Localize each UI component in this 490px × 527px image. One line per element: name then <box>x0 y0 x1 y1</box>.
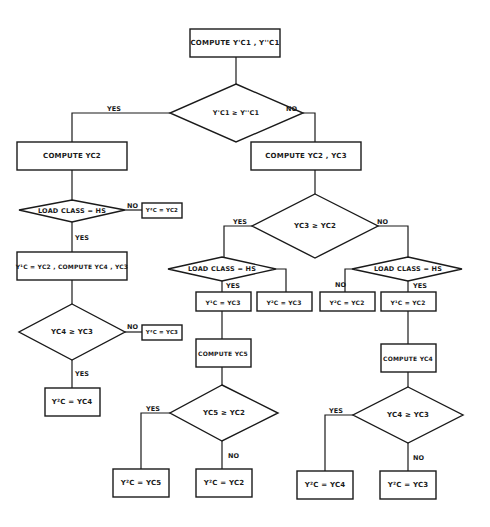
label-n2: COMPUTE YC2 <box>43 152 101 160</box>
edge-label-d2-no: NO <box>127 202 138 210</box>
edge-label-d3-yes: YES <box>75 370 89 378</box>
label-d8: YC4 ≥ YC3 <box>387 411 429 419</box>
edge-label-d5-yes: YES <box>226 282 240 290</box>
label-n16: Y²C = YC4 <box>305 481 346 489</box>
label-n17: Y²C = YC3 <box>388 481 429 489</box>
edge-label-d1-yes: YES <box>107 105 121 113</box>
label-d5: LOAD CLASS = HS <box>188 265 256 273</box>
edge-label-d8-yes: YES <box>329 407 343 415</box>
label-n1: COMPUTE Y'C1 , Y''C1 <box>191 39 280 47</box>
label-n12: COMPUTE YC5 <box>198 350 248 357</box>
edge-label-d6-yes: YES <box>413 282 427 290</box>
label-n9: Y²C = YC3 <box>266 299 301 306</box>
label-d1: Y'C1 ≥ Y''C1 <box>213 109 259 117</box>
label-d4: YC3 ≥ YC2 <box>294 222 336 230</box>
label-d7: YC5 ≥ YC2 <box>203 409 245 417</box>
label-n10: Y²C = YC2 <box>329 299 364 306</box>
label-n11: Y¹C = YC2 <box>390 299 425 306</box>
edge-label-d8-no: NO <box>413 454 424 462</box>
label-n7: Y²C = YC4 <box>52 398 93 406</box>
label-n13: COMPUTE YC4 <box>383 355 433 362</box>
edge-label-d4-yes: YES <box>233 218 247 226</box>
label-n14: Y²C = YC5 <box>121 479 162 487</box>
edge-label-d7-no: NO <box>228 452 239 460</box>
edge-label-d3-no: NO <box>127 323 138 331</box>
label-n8: Y¹C = YC3 <box>205 299 240 306</box>
label-d6: LOAD CLASS = HS <box>374 265 442 273</box>
label-d3: YC4 ≥ YC3 <box>51 328 93 336</box>
label-n3: COMPUTE YC2 , YC3 <box>265 152 346 160</box>
edge-label-d2-yes: YES <box>75 234 89 242</box>
edge-label-d4-no: NO <box>377 218 388 226</box>
label-n15: Y²C = YC2 <box>204 479 245 487</box>
label-n6: Y²C = YC3 <box>146 329 178 335</box>
label-d2: LOAD CLASS = HS <box>38 207 106 215</box>
label-n5: Y¹C = YC2 , COMPUTE YC4 , YC3 <box>16 263 128 270</box>
label-n4: Y²C = YC2 <box>146 207 178 213</box>
edge-label-d1-no: NO <box>286 105 297 113</box>
edge-label-d6-no: NO <box>335 281 346 289</box>
edge-label-d7-yes: YES <box>146 405 160 413</box>
